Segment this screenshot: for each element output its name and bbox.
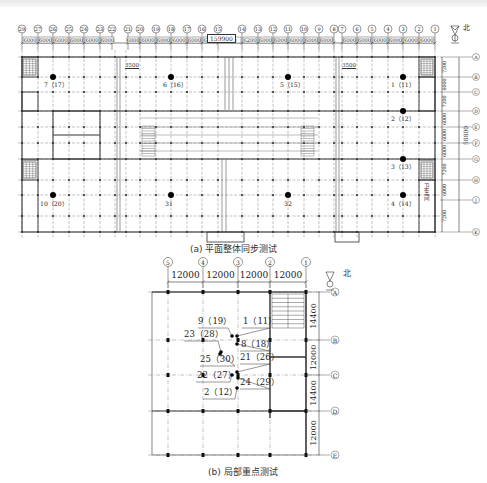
svg-text:7200: 7200 bbox=[442, 163, 447, 175]
svg-text:2（12）: 2（12） bbox=[391, 115, 415, 122]
svg-text:12000: 12000 bbox=[309, 420, 318, 445]
svg-text:14400: 14400 bbox=[309, 380, 318, 405]
svg-text:27: 27 bbox=[35, 26, 41, 32]
svg-text:6000: 6000 bbox=[373, 37, 386, 43]
svg-text:6000: 6000 bbox=[420, 37, 433, 43]
svg-text:6000: 6000 bbox=[54, 37, 67, 43]
svg-text:10（20）: 10（20） bbox=[40, 200, 68, 207]
svg-text:25: 25 bbox=[66, 26, 72, 32]
svg-text:20: 20 bbox=[137, 26, 143, 32]
svg-text:3（13）: 3（13） bbox=[391, 163, 415, 170]
svg-text:16: 16 bbox=[199, 26, 205, 32]
svg-text:23: 23 bbox=[97, 26, 103, 32]
svg-text:1: 1 bbox=[304, 259, 308, 266]
offset-dimension-left: 3500 bbox=[125, 62, 139, 69]
svg-text:4（14）: 4（14） bbox=[391, 200, 415, 207]
total-height-dimension: 58800 bbox=[462, 126, 469, 145]
svg-text:6000: 6000 bbox=[85, 37, 98, 43]
svg-text:8（18）: 8（18） bbox=[241, 339, 275, 349]
svg-text:1: 1 bbox=[433, 26, 436, 32]
svg-text:6000: 6000 bbox=[259, 37, 272, 43]
svg-text:3: 3 bbox=[236, 259, 240, 266]
svg-text:3: 3 bbox=[401, 26, 404, 32]
svg-text:6000: 6000 bbox=[358, 37, 371, 43]
svg-text:F: F bbox=[474, 141, 477, 146]
svg-text:12000: 12000 bbox=[274, 270, 303, 280]
svg-text:C: C bbox=[333, 372, 338, 379]
svg-text:9（19）: 9（19） bbox=[198, 316, 232, 326]
svg-text:6000: 6000 bbox=[343, 37, 356, 43]
svg-text:6000: 6000 bbox=[188, 37, 201, 43]
svg-text:8: 8 bbox=[332, 26, 335, 32]
svg-text:5: 5 bbox=[370, 26, 373, 32]
svg-text:21（26）: 21（26） bbox=[240, 352, 280, 362]
svg-text:D: D bbox=[333, 408, 338, 415]
svg-text:7: 7 bbox=[340, 26, 343, 32]
svg-text:E: E bbox=[474, 125, 477, 130]
svg-text:4: 4 bbox=[201, 259, 205, 266]
svg-text:5: 5 bbox=[166, 259, 170, 266]
svg-text:6000: 6000 bbox=[442, 78, 447, 90]
svg-text:6000: 6000 bbox=[274, 37, 287, 43]
svg-text:14: 14 bbox=[239, 26, 245, 32]
svg-text:B: B bbox=[333, 337, 338, 344]
svg-text:6000: 6000 bbox=[157, 37, 170, 43]
svg-text:6000: 6000 bbox=[404, 37, 417, 43]
svg-text:G: G bbox=[474, 157, 478, 162]
north-arrow-icon bbox=[451, 26, 459, 43]
svg-text:A: A bbox=[473, 55, 478, 60]
svg-text:10: 10 bbox=[301, 26, 307, 32]
total-width-dimension: 159900 bbox=[207, 34, 236, 43]
svg-text:6000: 6000 bbox=[101, 37, 114, 43]
svg-text:6000: 6000 bbox=[70, 37, 83, 43]
svg-text:6000: 6000 bbox=[39, 37, 52, 43]
column-dimension-labels-b: 12000120001200012000ABCDE144001200014400… bbox=[171, 270, 339, 459]
svg-text:H: H bbox=[474, 178, 478, 183]
svg-text:24: 24 bbox=[81, 26, 87, 32]
svg-text:12: 12 bbox=[270, 26, 276, 32]
svg-text:7（17）: 7（17） bbox=[44, 81, 68, 88]
measurement-points-a: 7（17）6（16）5（15）1（11）2（12）3（13）10（20）3132… bbox=[40, 74, 415, 207]
svg-text:6200: 6200 bbox=[243, 37, 256, 43]
north-label-a: 北 bbox=[463, 22, 470, 32]
svg-text:6000: 6000 bbox=[442, 145, 447, 157]
caption-a: (a) 平面整体同步测试 bbox=[190, 242, 277, 255]
room-label-restroom: 卫生间 bbox=[424, 183, 430, 201]
svg-text:9: 9 bbox=[317, 26, 320, 32]
svg-text:17: 17 bbox=[184, 26, 190, 32]
svg-text:J: J bbox=[474, 198, 477, 203]
svg-text:31: 31 bbox=[165, 200, 173, 207]
svg-text:14400: 14400 bbox=[309, 303, 318, 328]
svg-text:7200: 7200 bbox=[442, 95, 447, 107]
svg-text:2: 2 bbox=[417, 26, 420, 32]
svg-text:6: 6 bbox=[355, 26, 358, 32]
svg-text:E: E bbox=[333, 452, 337, 459]
svg-text:6000: 6000 bbox=[126, 37, 139, 43]
svg-text:29: 29 bbox=[19, 26, 25, 32]
svg-text:6000: 6000 bbox=[389, 37, 402, 43]
svg-text:6000: 6000 bbox=[172, 37, 185, 43]
svg-text:4: 4 bbox=[386, 26, 389, 32]
plan-a bbox=[22, 43, 459, 242]
svg-text:12000: 12000 bbox=[240, 270, 269, 280]
north-arrow-icon bbox=[326, 272, 334, 290]
svg-text:2: 2 bbox=[268, 259, 272, 266]
svg-text:12000: 12000 bbox=[309, 345, 318, 370]
offset-dimension-right: 3500 bbox=[342, 62, 356, 69]
svg-text:2（12）: 2（12） bbox=[204, 387, 238, 397]
svg-text:23（28）: 23（28） bbox=[184, 329, 224, 339]
svg-text:5（15）: 5（15） bbox=[280, 81, 304, 88]
svg-text:22（27）: 22（27） bbox=[197, 370, 237, 380]
svg-text:26: 26 bbox=[50, 26, 56, 32]
svg-text:32: 32 bbox=[284, 200, 292, 207]
svg-text:K: K bbox=[474, 230, 478, 235]
svg-text:6000: 6000 bbox=[320, 37, 333, 43]
svg-text:25（30）: 25（30） bbox=[200, 354, 240, 364]
svg-text:7200: 7200 bbox=[442, 210, 447, 222]
svg-text:12000: 12000 bbox=[206, 270, 235, 280]
svg-text:6000: 6000 bbox=[442, 113, 447, 125]
svg-text:11: 11 bbox=[285, 26, 291, 32]
svg-text:18: 18 bbox=[168, 26, 174, 32]
row-axis-labels: ABCDEFGHJK720060007200600060006000720060… bbox=[440, 54, 480, 236]
svg-text:12000: 12000 bbox=[171, 270, 200, 280]
